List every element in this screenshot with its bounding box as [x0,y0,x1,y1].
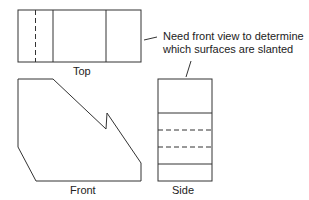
top-view [18,10,141,62]
top-view-label: Top [73,65,91,77]
note-line-1: Need front view to determine [163,30,304,43]
front-view [18,79,141,181]
annotation-note: Need front view to determine which surfa… [163,30,304,56]
side-view [158,79,212,181]
note-line-2: which surfaces are slanted [163,43,304,56]
side-view-label: Side [172,184,194,196]
front-view-label: Front [70,184,96,196]
